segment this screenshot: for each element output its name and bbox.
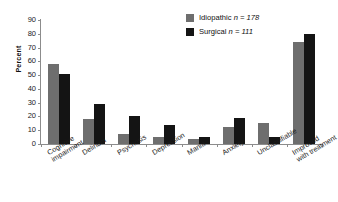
y-tick-label: 80 — [18, 30, 36, 38]
legend-swatch — [186, 28, 194, 36]
bar-surgical-improved-with-treatment — [304, 34, 315, 144]
y-tick-label: 20 — [18, 112, 36, 120]
legend-series-n: n = 178 — [234, 13, 260, 22]
legend-series-name: Surgical — [199, 27, 229, 36]
y-tick-label: 10 — [18, 126, 36, 134]
chart-legend: Idiopathic n = 178Surgical n = 111 — [186, 12, 259, 40]
plot-area — [41, 20, 322, 144]
x-tick-mark — [287, 144, 288, 147]
legend-swatch — [186, 14, 194, 22]
bar-idiopathic-cognitive-impairment — [48, 64, 59, 144]
x-tick-mark — [252, 144, 253, 147]
legend-series-n: n = 111 — [229, 27, 253, 36]
x-tick-mark — [217, 144, 218, 147]
bar-group — [146, 20, 181, 144]
bar-group — [41, 20, 76, 144]
y-tick-label: 90 — [18, 16, 36, 24]
legend-label: Surgical n = 111 — [199, 27, 253, 36]
bar-idiopathic-delirium — [83, 119, 94, 144]
y-tick-label: 40 — [18, 85, 36, 93]
legend-item: Idiopathic n = 178 — [186, 12, 259, 23]
bar-group — [287, 20, 322, 144]
y-tick-label: 30 — [18, 99, 36, 107]
x-tick-mark — [111, 144, 112, 147]
y-tick-label: 50 — [18, 71, 36, 79]
bar-group — [76, 20, 111, 144]
y-tick-label: 70 — [18, 44, 36, 52]
x-tick-mark — [182, 144, 183, 147]
legend-label: Idiopathic n = 178 — [199, 13, 259, 22]
x-tick-mark — [146, 144, 147, 147]
bar-surgical-cognitive-impairment — [59, 74, 70, 144]
x-tick-mark — [41, 144, 42, 147]
bar-group — [111, 20, 146, 144]
y-tick-label: 60 — [18, 57, 36, 65]
y-tick-label: 0 — [18, 140, 36, 148]
legend-series-name: Idiopathic — [199, 13, 234, 22]
legend-item: Surgical n = 111 — [186, 26, 259, 37]
